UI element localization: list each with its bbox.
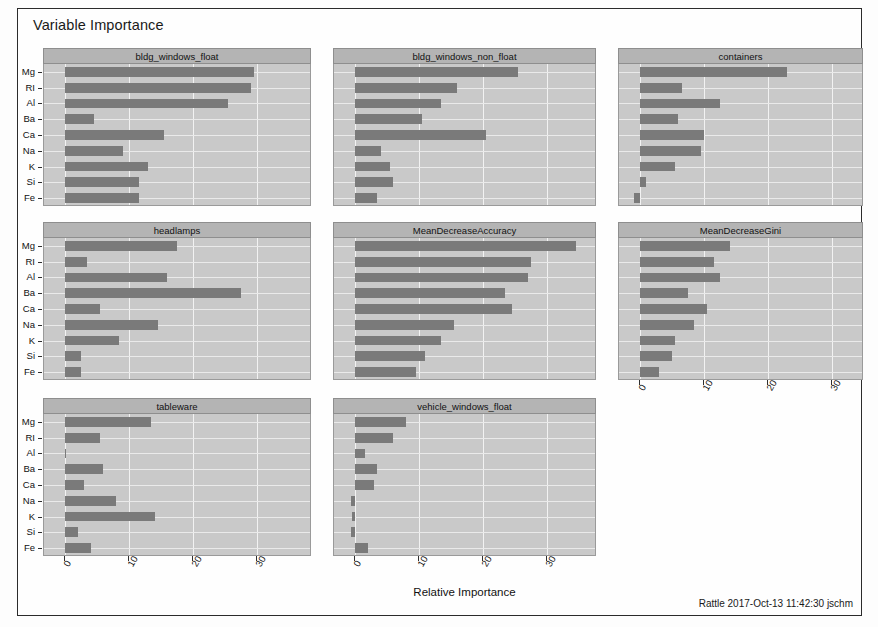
grid-line-horizontal — [44, 356, 310, 357]
bar — [355, 162, 390, 172]
facet-plot-area — [333, 64, 596, 206]
bar — [355, 304, 512, 314]
bar — [355, 336, 441, 346]
facet-strip-label: containers — [618, 48, 863, 64]
y-axis-tick — [38, 277, 42, 278]
facet-strip-label: MeanDecreaseAccuracy — [333, 222, 596, 238]
bar — [65, 273, 167, 283]
bar — [640, 99, 720, 109]
bar — [65, 464, 103, 474]
bar — [355, 433, 393, 443]
bar — [355, 99, 441, 109]
bar — [640, 320, 694, 330]
facet-strip-label: MeanDecreaseGini — [618, 222, 863, 238]
grid-line-horizontal — [334, 548, 595, 549]
y-axis-tick — [38, 309, 42, 310]
y-axis-tick — [38, 325, 42, 326]
bar — [640, 336, 675, 346]
y-axis-tick-label: Na — [11, 320, 35, 330]
y-axis-tick-label: Al — [11, 272, 35, 282]
y-axis-tick — [38, 182, 42, 183]
bar — [355, 193, 377, 203]
bar — [65, 241, 177, 251]
bar — [65, 162, 148, 172]
bar — [640, 114, 678, 124]
y-axis-tick — [38, 548, 42, 549]
bar — [355, 543, 368, 553]
bar — [640, 257, 714, 267]
y-axis-tick — [38, 372, 42, 373]
y-axis-tick — [38, 88, 42, 89]
bar — [351, 527, 355, 537]
bar — [65, 288, 241, 298]
y-axis-tick — [38, 356, 42, 357]
y-axis-tick — [38, 151, 42, 152]
y-axis-tick-label: Ba — [11, 114, 35, 124]
bar — [65, 449, 66, 459]
bar — [634, 193, 640, 203]
bar — [65, 114, 94, 124]
y-axis-tick-label: K — [11, 162, 35, 172]
y-axis-tick — [38, 501, 42, 502]
y-axis-tick-label: Fe — [11, 193, 35, 203]
bar — [65, 433, 100, 443]
y-axis-tick-label: Fe — [11, 367, 35, 377]
bar — [355, 464, 377, 474]
facet-strip-label: tableware — [43, 398, 311, 414]
y-axis-tick-label: Mg — [11, 241, 35, 251]
grid-line-horizontal — [619, 182, 862, 183]
bar — [352, 512, 355, 522]
bar — [355, 114, 422, 124]
facet-strip-label: headlamps — [43, 222, 311, 238]
grid-line-horizontal — [334, 517, 595, 518]
bar — [640, 67, 787, 77]
facet-plot-area — [43, 64, 311, 206]
facet-plot-area — [618, 238, 863, 380]
bar — [65, 351, 81, 361]
facet-plot-area — [43, 238, 311, 380]
y-axis-tick-label: Na — [11, 146, 35, 156]
y-axis-tick — [38, 119, 42, 120]
bar — [65, 512, 155, 522]
y-axis-tick-label: Na — [11, 496, 35, 506]
bar — [640, 304, 707, 314]
y-axis-tick-label: RI — [11, 433, 35, 443]
facet-strip-label: bldg_windows_float — [43, 48, 311, 64]
y-axis-tick-label: Ca — [11, 304, 35, 314]
grid-line-horizontal — [44, 453, 310, 454]
y-axis-tick-label: Al — [11, 98, 35, 108]
y-axis-tick — [38, 341, 42, 342]
bar — [65, 130, 164, 140]
y-axis-tick — [38, 293, 42, 294]
bar — [640, 273, 720, 283]
bar — [355, 288, 505, 298]
bar — [640, 83, 682, 93]
page-title: Variable Importance — [33, 17, 164, 33]
bar — [65, 193, 139, 203]
facet-strip-label: vehicle_windows_float — [333, 398, 596, 414]
y-axis-tick-label: Fe — [11, 543, 35, 553]
y-axis-tick-label: Mg — [11, 67, 35, 77]
y-axis-tick-label: RI — [11, 83, 35, 93]
facet-panel: bldg_windows_non_float — [333, 48, 596, 206]
bar — [640, 288, 688, 298]
facet-panel: tableware — [43, 398, 311, 556]
bar — [65, 304, 100, 314]
bar — [65, 99, 228, 109]
bar — [65, 257, 87, 267]
y-axis-tick — [38, 517, 42, 518]
grid-line-horizontal — [334, 532, 595, 533]
bar — [355, 83, 457, 93]
bar — [355, 351, 425, 361]
y-axis-tick-label: K — [11, 336, 35, 346]
bar — [640, 367, 659, 377]
plot-window: Variable Importance bldg_windows_floatMg… — [0, 0, 878, 627]
bar — [355, 367, 416, 377]
bar — [65, 67, 254, 77]
facet-panel: headlamps — [43, 222, 311, 380]
bar — [355, 257, 531, 267]
bar — [355, 67, 518, 77]
y-axis-tick — [38, 198, 42, 199]
bar — [65, 367, 81, 377]
bar — [355, 480, 374, 490]
